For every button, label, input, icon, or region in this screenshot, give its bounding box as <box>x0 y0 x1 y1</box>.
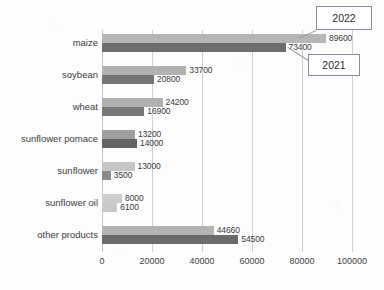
value-label-2021-wheat: 16900 <box>147 107 170 116</box>
xtick-0: 0 <box>99 256 104 266</box>
bar-row: 80006100 <box>102 194 352 216</box>
xtick-80000: 80000 <box>289 256 314 266</box>
category-label-maize: maize <box>0 37 98 48</box>
category-label-sunflower-oil: sunflower oil <box>0 197 98 208</box>
callout-2021[interactable]: 2021 <box>308 54 360 76</box>
bar-row: 4466054500 <box>102 226 352 248</box>
value-label-2022-soybean: 33700 <box>189 66 212 75</box>
value-label-2022-sunflower: 13000 <box>138 162 161 171</box>
value-label-2021-sunflower-oil: 6100 <box>120 203 139 212</box>
bar-2022-other-products[interactable] <box>102 226 214 235</box>
bar-2022-sunflower-pomace[interactable] <box>102 130 135 139</box>
bar-2021-wheat[interactable] <box>102 107 144 116</box>
bar-2022-sunflower-oil[interactable] <box>102 194 122 203</box>
value-label-2022-maize: 89600 <box>329 34 352 43</box>
category-label-other-products: other products <box>0 229 98 240</box>
bar-row: 8960073400 <box>102 34 352 56</box>
value-label-2022-other-products: 44660 <box>217 226 240 235</box>
bar-2021-sunflower[interactable] <box>102 171 111 180</box>
bar-2021-soybean[interactable] <box>102 75 154 84</box>
xtick-20000: 20000 <box>139 256 164 266</box>
category-label-sunflower-pomace: sunflower pomace <box>0 133 98 144</box>
value-label-2021-other-products: 54500 <box>241 235 264 244</box>
bar-2021-other-products[interactable] <box>102 235 238 244</box>
bar-2021-sunflower-pomace[interactable] <box>102 139 137 148</box>
bar-row: 130003500 <box>102 162 352 184</box>
bar-2021-maize[interactable] <box>102 43 286 52</box>
callout-2022[interactable]: 2022 <box>316 6 372 30</box>
category-label-sunflower: sunflower <box>0 165 98 176</box>
bar-row: 1320014000 <box>102 130 352 152</box>
bar-2021-sunflower-oil[interactable] <box>102 203 117 212</box>
bar-chart: 8960073400337002080024200169001320014000… <box>0 0 384 290</box>
xtick-60000: 60000 <box>239 256 264 266</box>
value-label-2021-sunflower-pomace: 14000 <box>140 139 163 148</box>
category-label-soybean: soybean <box>0 69 98 80</box>
value-label-2021-soybean: 20800 <box>157 75 180 84</box>
category-label-wheat: wheat <box>0 101 98 112</box>
xtick-100000: 100000 <box>337 256 367 266</box>
bar-row: 2420016900 <box>102 98 352 120</box>
xtick-40000: 40000 <box>189 256 214 266</box>
value-label-2021-sunflower: 3500 <box>114 171 133 180</box>
